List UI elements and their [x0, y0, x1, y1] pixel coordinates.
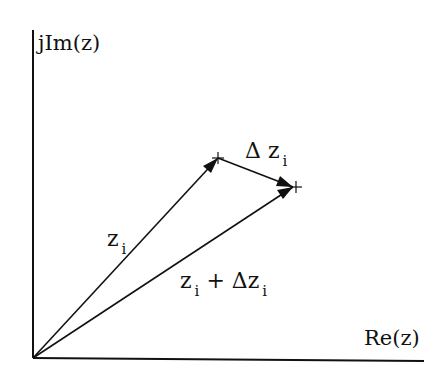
x-axis [33, 358, 424, 361]
vector-z-i [33, 158, 218, 358]
label-z-i-plus-delta: zi + Δzi [180, 270, 267, 292]
y-axis-label: jIm(z) [38, 33, 100, 54]
x-axis-label: Re(z) [364, 328, 420, 349]
label-z-i: zi [107, 228, 126, 250]
arrowhead-z-i-plus-delta [277, 187, 293, 199]
arrowhead-delta-z-i [276, 176, 293, 187]
tip-marker-z-i-plus-delta [290, 181, 302, 193]
label-delta-z-i: Δ zi [245, 140, 287, 162]
